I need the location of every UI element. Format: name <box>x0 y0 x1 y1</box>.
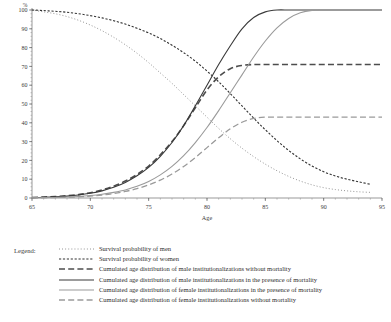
chart-svg: 0102030405060708090100%65707580859095Age <box>0 0 391 232</box>
y-axis-tick-label: 60 <box>22 82 28 88</box>
legend-entry: Cumulated age distribution of male insti… <box>58 264 322 274</box>
legend-swatch-male_inst_no_mortality <box>58 264 95 274</box>
legend-swatch-male_inst_with_mortality <box>58 275 95 285</box>
x-axis-title: Age <box>202 214 213 221</box>
y-axis-tick-label: 40 <box>22 120 28 126</box>
x-axis-tick-label: 70 <box>87 204 93 210</box>
y-axis-tick-label: 80 <box>22 45 28 51</box>
y-axis-tick-label: 50 <box>22 101 28 107</box>
legend-swatch-female_inst_with_mortality <box>58 285 95 295</box>
chart-figure: 0102030405060708090100%65707580859095Age… <box>0 0 391 322</box>
x-axis-tick-label: 80 <box>204 204 210 210</box>
legend-entry-label: Survival probability of men <box>99 244 171 254</box>
legend-swatch-female_inst_no_mortality <box>58 295 95 305</box>
y-axis-tick-label: 100 <box>19 7 28 13</box>
chart-legend: Legend: Survival probability of menSurvi… <box>0 236 391 322</box>
series-line-male_inst_with_mortality <box>32 10 382 198</box>
chart-plot-area: 0102030405060708090100%65707580859095Age <box>0 0 391 232</box>
legend-entry: Survival probability of men <box>58 244 322 254</box>
legend-entry: Cumulated age distribution of female ins… <box>58 285 322 295</box>
x-axis-tick-label: 65 <box>29 204 35 210</box>
y-axis-unit-label: % <box>23 2 28 8</box>
y-axis-tick-label: 20 <box>22 158 28 164</box>
legend-entry-list: Survival probability of menSurvival prob… <box>58 244 322 305</box>
legend-entry: Cumulated age distribution of male insti… <box>58 275 322 285</box>
legend-entry-label: Survival probability of women <box>99 254 179 264</box>
x-axis-tick-label: 95 <box>379 204 385 210</box>
series-line-survival_women <box>32 10 370 184</box>
x-axis-tick-label: 90 <box>321 204 327 210</box>
legend-swatch-survival_men <box>58 244 95 254</box>
series-line-female_inst_no_mortality <box>32 117 382 198</box>
legend-entry-label: Cumulated age distribution of female ins… <box>99 285 322 295</box>
y-axis-tick-label: 70 <box>22 64 28 70</box>
x-axis-tick-label: 75 <box>146 204 152 210</box>
y-axis-tick-label: 90 <box>22 26 28 32</box>
legend-title: Legend: <box>14 247 36 254</box>
legend-entry-label: Cumulated age distribution of male insti… <box>99 275 317 285</box>
series-line-survival_men <box>32 10 370 192</box>
series-line-female_inst_with_mortality <box>32 10 382 198</box>
x-axis-tick-label: 85 <box>262 204 268 210</box>
legend-swatch-survival_women <box>58 254 95 264</box>
legend-entry: Cumulated age distribution of female ins… <box>58 295 322 305</box>
y-axis-tick-label: 0 <box>25 195 28 201</box>
y-axis-tick-label: 10 <box>22 176 28 182</box>
legend-entry-label: Cumulated age distribution of male insti… <box>99 264 291 274</box>
legend-entry-label: Cumulated age distribution of female ins… <box>99 295 296 305</box>
y-axis-tick-label: 30 <box>22 139 28 145</box>
legend-entry: Survival probability of women <box>58 254 322 264</box>
